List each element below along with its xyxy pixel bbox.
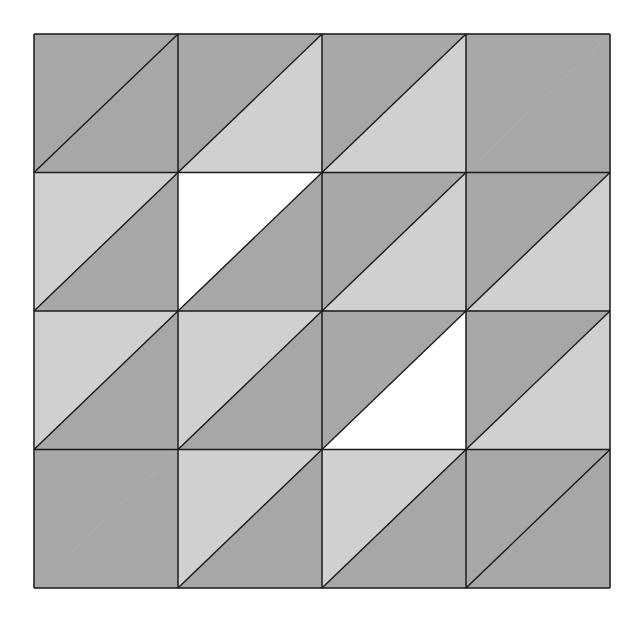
grid-cell [34,450,178,589]
quilt-grid-diagram [0,0,641,619]
grid-cell [466,34,610,173]
